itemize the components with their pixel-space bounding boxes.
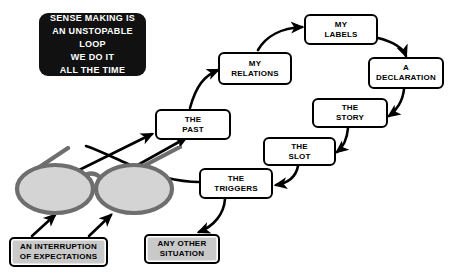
edge-my-labels-to-a-declaration <box>378 38 406 56</box>
node-any-other-situation-line-1: ANY OTHER <box>158 239 207 249</box>
node-an-interruption-line-1: AN INTERRUPTION <box>20 242 97 252</box>
sense-making-loop-diagram: SENSE MAKING IS AN UNSTOPABLE LOOP WE DO… <box>0 0 454 276</box>
eyeglasses-icon <box>8 146 198 226</box>
node-the-past[interactable]: THE PAST <box>155 109 231 140</box>
title-line-3: WE DO IT <box>71 51 114 64</box>
node-any-other-situation[interactable]: ANY OTHER SITUATION <box>144 234 220 264</box>
title-card: SENSE MAKING IS AN UNSTOPABLE LOOP WE DO… <box>39 13 146 76</box>
glasses-left-lens <box>17 165 93 213</box>
node-an-interruption-of-expectations[interactable]: AN INTERRUPTION OF EXPECTATIONS <box>9 237 108 267</box>
node-the-story-line-1: THE <box>342 103 359 113</box>
node-the-story[interactable]: THE STORY <box>312 98 388 128</box>
node-my-labels-line-1: MY <box>335 20 347 30</box>
node-a-declaration-line-1: A <box>403 63 409 73</box>
node-an-interruption-line-2: OF EXPECTATIONS <box>20 252 97 262</box>
node-the-triggers-line-1: THE <box>228 174 245 184</box>
node-my-relations-line-1: MY <box>249 59 261 69</box>
node-my-relations-line-2: RELATIONS <box>231 69 278 79</box>
node-the-slot-line-2: SLOT <box>288 152 310 162</box>
node-the-triggers-line-2: TRIGGERS <box>214 184 257 194</box>
node-the-triggers[interactable]: THE TRIGGERS <box>199 168 273 199</box>
node-the-past-line-1: THE <box>185 115 202 125</box>
edge-my-relations-to-my-labels <box>258 27 302 50</box>
node-any-other-situation-line-2: SITUATION <box>160 249 204 259</box>
node-the-past-line-2: PAST <box>182 125 204 135</box>
edge-the-story-to-the-slot <box>337 128 348 152</box>
title-line-2: AN UNSTOPABLE LOOP <box>45 25 140 51</box>
title-line-4: ALL THE TIME <box>60 64 125 77</box>
node-a-declaration-line-2: DECLARATION <box>376 73 436 83</box>
node-the-story-line-2: STORY <box>336 113 364 123</box>
edge-the-triggers-to-any-other-situation <box>199 199 225 232</box>
node-a-declaration[interactable]: A DECLARATION <box>368 57 444 89</box>
title-line-1: SENSE MAKING IS <box>50 12 135 25</box>
node-my-labels[interactable]: MY LABELS <box>304 14 378 45</box>
node-the-slot[interactable]: THE SLOT <box>263 137 336 166</box>
edge-the-past-to-my-relations <box>190 70 218 108</box>
edge-a-declaration-to-the-story <box>389 89 404 116</box>
glasses-right-lens <box>96 165 172 213</box>
node-my-labels-line-2: LABELS <box>324 30 357 40</box>
node-my-relations[interactable]: MY RELATIONS <box>218 52 292 85</box>
node-the-slot-line-1: THE <box>291 142 308 152</box>
edge-the-slot-to-the-triggers <box>276 166 298 185</box>
